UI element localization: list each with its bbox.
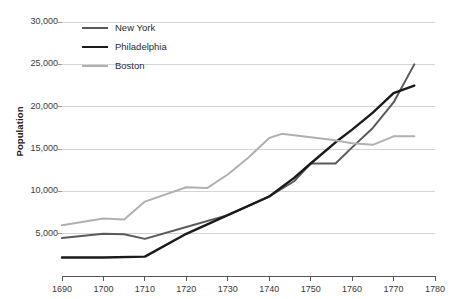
chart-legend: New YorkPhiladelphiaBoston [82, 18, 222, 75]
x-tick-label-1730: 1730 [206, 285, 250, 294]
x-tick-label-1700: 1700 [81, 285, 125, 294]
legend-line-swatch-icon [82, 46, 108, 48]
population-line-chart: 5,00010,00015,00020,00025,00030,000 1690… [0, 0, 458, 299]
x-tick-label-1780: 1780 [413, 285, 457, 294]
x-axis-tick-labels: 1690170017101720173017401750176017701780 [0, 0, 458, 299]
x-tick-label-1760: 1760 [330, 285, 374, 294]
legend-item-new-york[interactable]: New York [82, 18, 222, 37]
x-tick-label-1710: 1710 [123, 285, 167, 294]
x-tick-label-1720: 1720 [164, 285, 208, 294]
legend-item-label: Boston [115, 60, 145, 71]
x-tick-label-1740: 1740 [247, 285, 291, 294]
legend-item-boston[interactable]: Boston [82, 56, 222, 75]
legend-item-label: New York [115, 22, 155, 33]
legend-item-philadelphia[interactable]: Philadelphia [82, 37, 222, 56]
legend-line-swatch-icon [82, 65, 108, 67]
y-axis-title: Population [14, 72, 25, 192]
x-tick-label-1750: 1750 [289, 285, 333, 294]
legend-item-label: Philadelphia [115, 41, 167, 52]
x-tick-label-1690: 1690 [40, 285, 84, 294]
legend-line-swatch-icon [82, 27, 108, 29]
x-tick-label-1770: 1770 [372, 285, 416, 294]
